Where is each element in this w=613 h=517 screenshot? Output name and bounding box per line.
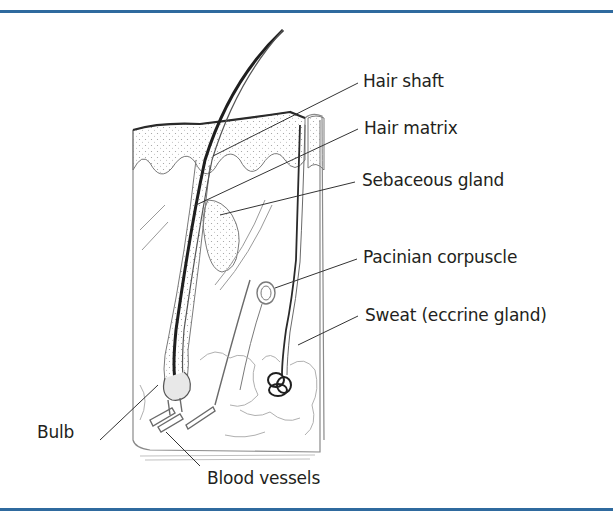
label-pacinian-corpuscle: Pacinian corpuscle [363, 247, 517, 267]
leader-sebaceous-gland [220, 182, 355, 215]
leader-sweat-gland [298, 316, 358, 345]
label-sweat-gland: Sweat (eccrine gland) [365, 305, 547, 325]
leader-pacinian-corpuscle [275, 259, 357, 288]
hair-follicle [164, 160, 210, 395]
subcutaneous-base-lines [140, 455, 315, 460]
label-blood-vessels: Blood vessels [207, 468, 320, 488]
leader-blood-vessels [166, 432, 200, 466]
leader-bulb [100, 385, 158, 440]
right-flap-epidermis [308, 116, 324, 170]
label-sebaceous-gland: Sebaceous gland [362, 170, 504, 190]
label-hair-shaft: Hair shaft [363, 71, 444, 91]
label-hair-matrix: Hair matrix [364, 118, 458, 138]
label-bulb: Bulb [37, 422, 74, 442]
skin-diagram [0, 0, 613, 517]
sebaceous-gland-drawing [203, 200, 239, 272]
sweat-gland-coil [268, 373, 291, 396]
